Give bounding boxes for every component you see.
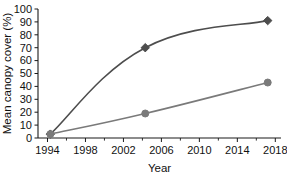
x-tick-label: 1994 xyxy=(35,144,59,156)
data-point-circle xyxy=(264,79,271,86)
y-tick-label: 40 xyxy=(20,80,32,92)
y-tick-label: 90 xyxy=(20,16,32,28)
x-tick-label: 2006 xyxy=(149,144,173,156)
y-tick-label: 10 xyxy=(20,119,32,131)
x-tick-label: 2010 xyxy=(187,144,211,156)
x-axis-title: Year xyxy=(148,162,171,174)
y-tick-label: 20 xyxy=(20,106,32,118)
data-point-circle xyxy=(47,131,54,138)
x-tick-label: 2002 xyxy=(111,144,135,156)
y-tick-label: 80 xyxy=(20,29,32,41)
line-chart: 0102030405060708090100 19941998200220062… xyxy=(0,0,287,178)
x-tick-label: 1998 xyxy=(73,144,97,156)
y-axis-title: Mean canopy cover (%) xyxy=(1,13,13,135)
y-tick-label: 50 xyxy=(20,67,32,79)
y-tick-label: 60 xyxy=(20,54,32,66)
y-tick-label: 30 xyxy=(20,93,32,105)
y-tick-label: 100 xyxy=(14,3,32,15)
y-tick-label: 0 xyxy=(26,132,32,144)
y-tick-label: 70 xyxy=(20,42,32,54)
x-tick-label: 2014 xyxy=(225,144,249,156)
chart-container: 0102030405060708090100 19941998200220062… xyxy=(0,0,287,178)
data-point-circle xyxy=(142,110,149,117)
x-tick-label: 2018 xyxy=(263,144,287,156)
